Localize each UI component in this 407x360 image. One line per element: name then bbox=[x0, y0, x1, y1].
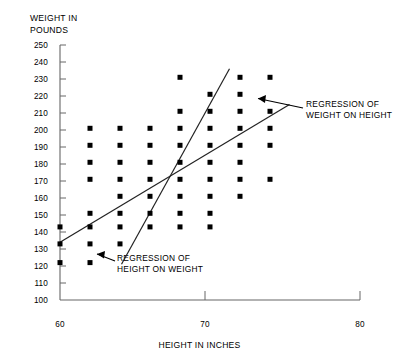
data-point-marker bbox=[208, 143, 213, 148]
arrow-head-height-on-weight bbox=[97, 251, 105, 259]
data-point-marker bbox=[208, 160, 213, 165]
data-point-marker bbox=[178, 75, 183, 80]
data-point-marker bbox=[88, 160, 93, 165]
data-point-marker bbox=[148, 211, 153, 216]
data-point-marker bbox=[178, 224, 183, 229]
data-point-marker bbox=[238, 194, 243, 199]
regression-line-weight-on-height bbox=[60, 105, 290, 243]
data-point-marker bbox=[208, 224, 213, 229]
data-point-marker bbox=[208, 177, 213, 182]
data-point-marker bbox=[268, 109, 273, 114]
data-point-marker bbox=[88, 260, 93, 265]
data-point-marker bbox=[178, 160, 183, 165]
data-point-marker bbox=[238, 109, 243, 114]
regression-line-height-on-weight bbox=[122, 69, 230, 264]
plot-vector-layer bbox=[0, 0, 407, 360]
data-point-marker bbox=[208, 109, 213, 114]
data-point-marker bbox=[88, 211, 93, 216]
arrow-head-weight-on-height bbox=[258, 95, 266, 103]
data-point-marker bbox=[268, 177, 273, 182]
data-point-marker bbox=[88, 241, 93, 246]
data-point-marker bbox=[148, 160, 153, 165]
data-point-marker bbox=[118, 160, 123, 165]
figure-canvas: WEIGHT INPOUNDS 250 240 230 220 210 200 … bbox=[0, 0, 407, 360]
data-point-marker bbox=[118, 126, 123, 131]
data-point-marker bbox=[208, 92, 213, 97]
data-point-marker bbox=[88, 177, 93, 182]
data-point-marker bbox=[148, 224, 153, 229]
data-point-marker bbox=[268, 143, 273, 148]
data-point-marker bbox=[238, 143, 243, 148]
data-point-marker bbox=[88, 224, 93, 229]
data-point-marker bbox=[268, 126, 273, 131]
axes-spines bbox=[60, 45, 360, 300]
data-point-marker bbox=[178, 177, 183, 182]
data-point-marker bbox=[148, 194, 153, 199]
data-point-marker bbox=[118, 177, 123, 182]
data-point-marker bbox=[238, 177, 243, 182]
data-point-marker bbox=[208, 211, 213, 216]
data-point-marker bbox=[208, 126, 213, 131]
data-point-marker bbox=[118, 224, 123, 229]
data-point-marker bbox=[268, 75, 273, 80]
data-point-marker bbox=[88, 143, 93, 148]
x-axis-tick-marks bbox=[205, 291, 360, 300]
data-point-marker bbox=[238, 160, 243, 165]
data-point-marker bbox=[178, 211, 183, 216]
data-point-marker bbox=[118, 241, 123, 246]
data-point-marker bbox=[238, 92, 243, 97]
y-axis-tick-marks bbox=[60, 45, 66, 283]
data-point-marker bbox=[118, 143, 123, 148]
data-point-marker bbox=[178, 194, 183, 199]
data-point-marker bbox=[208, 194, 213, 199]
data-point-marker bbox=[118, 211, 123, 216]
scatter-markers bbox=[58, 75, 273, 265]
data-point-marker bbox=[58, 241, 63, 246]
data-point-marker bbox=[238, 75, 243, 80]
data-point-marker bbox=[148, 126, 153, 131]
data-point-marker bbox=[178, 143, 183, 148]
data-point-marker bbox=[58, 224, 63, 229]
data-point-marker bbox=[88, 126, 93, 131]
regression-lines bbox=[60, 69, 290, 264]
data-point-marker bbox=[178, 109, 183, 114]
data-point-marker bbox=[148, 177, 153, 182]
data-point-marker bbox=[238, 126, 243, 131]
data-point-marker bbox=[178, 126, 183, 131]
data-point-marker bbox=[148, 143, 153, 148]
data-point-marker bbox=[58, 260, 63, 265]
data-point-marker bbox=[118, 194, 123, 199]
